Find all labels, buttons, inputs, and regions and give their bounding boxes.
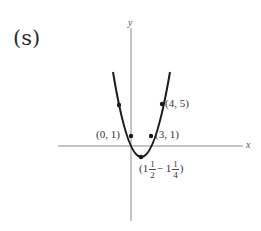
parabola-curve (113, 72, 170, 157)
fraction-quarter: 14 (172, 159, 179, 180)
point-0-1 (129, 134, 133, 138)
point-3-1 (149, 134, 153, 138)
panel-label: (s) (13, 26, 40, 50)
vertex-middle: − 1 (157, 162, 171, 174)
vertex-open: (1 (139, 162, 148, 174)
parabola-figure: (s) y x (4, 5) (0, 1) (3, 1) (112− 114) (0, 0, 261, 231)
x-axis-label: x (246, 139, 250, 150)
point-label-0-1: (0, 1) (96, 128, 120, 140)
point-label-4-5: (4, 5) (165, 97, 189, 109)
y-axis-label: y (128, 17, 132, 28)
vertex-label: (112− 114) (139, 159, 183, 180)
point-label-3-1: (3, 1) (155, 128, 179, 140)
fraction-half: 12 (149, 159, 156, 180)
point-4-5 (160, 102, 164, 106)
point-neg1-5 (117, 103, 121, 107)
vertex-close: ) (180, 162, 184, 174)
